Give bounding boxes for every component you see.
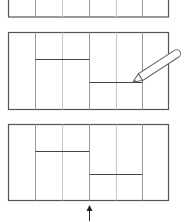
up-arrow-icon	[87, 205, 93, 221]
panel-3-outline	[9, 125, 169, 201]
panel-2	[9, 33, 183, 110]
panel-1-column-lines	[36, 0, 143, 17]
panel-1	[9, 0, 169, 17]
panel-3	[9, 125, 169, 222]
pencil-icon	[131, 48, 182, 85]
panel-1-outline	[9, 0, 169, 17]
panel-3-column-lines	[36, 125, 143, 201]
diagram-canvas	[0, 0, 189, 221]
panel-2-column-lines	[36, 33, 143, 110]
